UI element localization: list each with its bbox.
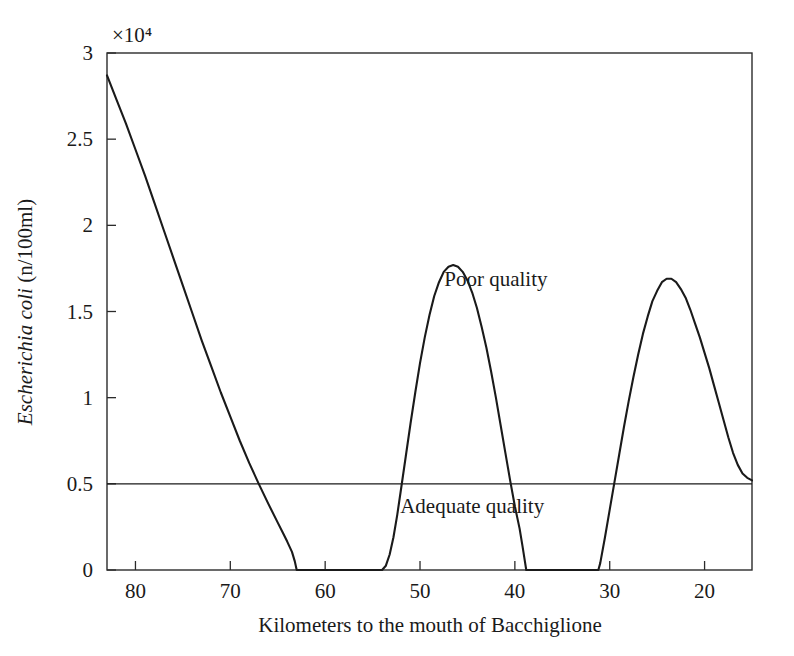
x-axis-tick-label: 70 xyxy=(220,579,241,603)
x-axis-tick-label: 30 xyxy=(599,579,620,603)
y-axis-exponent-label: ×10⁴ xyxy=(112,23,152,47)
y-axis-tick-label: 1.5 xyxy=(67,300,93,324)
y-axis-tick-label: 2.5 xyxy=(67,127,93,151)
y-axis-tick-label: 1 xyxy=(83,386,94,410)
tick-labels-group: 00.511.522.5380706050403020 xyxy=(67,41,715,603)
chart-figure: 00.511.522.5380706050403020 Poor quality… xyxy=(0,0,794,656)
annotation-poor-quality: Poor quality xyxy=(444,267,548,291)
y-axis-tick-label: 0 xyxy=(83,558,94,582)
x-axis-tick-label: 50 xyxy=(410,579,431,603)
x-axis-tick-label: 80 xyxy=(125,579,146,603)
y-axis-title: Escherichia coli (n/100ml) xyxy=(13,199,37,426)
chart-canvas: 00.511.522.5380706050403020 Poor quality… xyxy=(0,0,794,656)
x-axis-tick-label: 40 xyxy=(504,579,525,603)
annotations-group: Poor qualityAdequate quality xyxy=(400,267,548,518)
y-axis-tick-label: 0.5 xyxy=(67,472,93,496)
x-axis-tick-label: 60 xyxy=(315,579,336,603)
y-axis-title-units: (n/100ml) xyxy=(13,199,37,288)
x-axis-tick-label: 20 xyxy=(694,579,715,603)
y-axis-tick-label: 2 xyxy=(83,213,94,237)
y-axis-title-species: Escherichia coli xyxy=(13,288,37,426)
y-axis-tick-label: 3 xyxy=(83,41,94,65)
annotation-adequate-quality: Adequate quality xyxy=(400,494,545,518)
x-axis-title: Kilometers to the mouth of Bacchiglione xyxy=(258,613,602,637)
